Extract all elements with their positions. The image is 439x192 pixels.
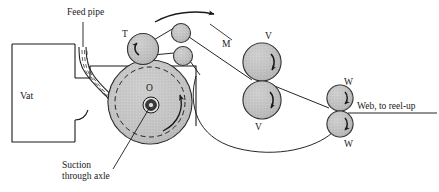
guide-roll-upper <box>172 24 191 43</box>
winder-roll-W-lower: W <box>327 111 353 149</box>
web-outlet-label: Web, to reel-up <box>357 101 416 111</box>
press-roll-V-upper-label: V <box>265 31 272 41</box>
touch-roll-texture <box>128 34 159 65</box>
vat-label: Vat <box>20 90 34 101</box>
winder-roll-W-upper: W <box>327 77 353 111</box>
cylinder-center-label: O <box>146 83 153 93</box>
guide-roll-lower-texture <box>174 47 193 66</box>
web-direction-arrow <box>155 12 214 22</box>
machine-path-callout: M <box>210 24 232 49</box>
winder-roll-W-lower-texture <box>327 111 353 137</box>
press-roll-V-lower-label: V <box>255 122 262 132</box>
web-segment-guide-lower-down <box>190 61 200 75</box>
axle-bore <box>148 102 153 107</box>
winder-roll-W-upper-label: W <box>344 77 353 87</box>
press-roll-V-lower-texture <box>243 81 281 119</box>
papermaking-machine-diagram: Vat Feed pipe <box>0 0 439 192</box>
press-roll-V-upper-texture <box>243 43 281 81</box>
vat-group: Vat <box>12 44 75 142</box>
press-roll-V-upper: V <box>243 31 281 81</box>
direction-arrow-path <box>155 12 214 22</box>
web-outlet-callout: Web, to reel-up <box>348 101 437 113</box>
suction-cylinder: O <box>108 60 192 144</box>
suction-label-line2: through axle <box>62 171 110 181</box>
feed-pipe-shoulder-lower <box>75 110 88 120</box>
guide-roll-lower <box>174 47 193 66</box>
suction-label-line1: Suction <box>62 160 91 170</box>
winder-roll-W-upper-texture <box>327 85 353 111</box>
touch-roll-label: T <box>122 29 128 39</box>
diagram-canvas: Vat Feed pipe <box>0 0 439 192</box>
guide-roll-upper-texture <box>172 24 191 43</box>
machine-path-label: M <box>222 39 231 49</box>
winder-roll-W-lower-label: W <box>344 139 353 149</box>
M-leader-line <box>210 24 232 40</box>
feed-pipe-label: Feed pipe <box>67 7 104 17</box>
press-roll-V-lower: V <box>243 81 281 132</box>
touch-roll-T: T <box>122 29 159 65</box>
